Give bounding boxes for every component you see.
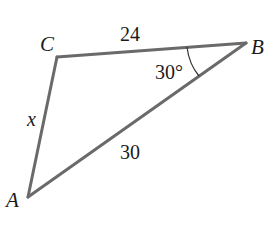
side-ab — [28, 43, 246, 197]
angle-arc-b — [187, 47, 199, 76]
side-cb — [57, 43, 246, 57]
side-label-ac: x — [27, 109, 36, 129]
side-label-ab: 30 — [120, 142, 140, 162]
vertex-label-c: C — [40, 34, 54, 55]
angle-label-b: 30° — [155, 62, 183, 82]
triangle-diagram: C B A 24 30 x 30° — [0, 0, 275, 237]
side-label-cb: 24 — [120, 24, 140, 44]
vertex-label-b: B — [251, 37, 264, 58]
vertex-label-a: A — [6, 190, 19, 211]
